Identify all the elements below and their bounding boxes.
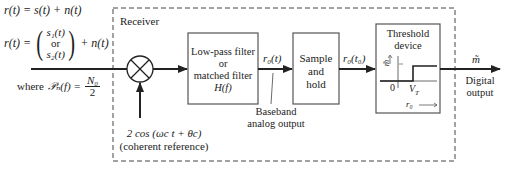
threshold-device-label: Threshold device: [376, 28, 440, 52]
sh-line3: hold: [293, 78, 339, 91]
reference-signal-label: 2 cos (ωc t + θc) (coherent reference): [114, 127, 214, 153]
receiver-label: Receiver: [120, 15, 159, 28]
lpf-line3: matched filter: [188, 70, 258, 82]
or-term: or: [51, 38, 60, 49]
vt-sub: T: [415, 89, 419, 97]
output-line2: output: [455, 87, 505, 99]
equation-suffix: + n(t): [80, 37, 108, 50]
sh-line1: Sample: [293, 52, 339, 65]
s1-term: s₁(t): [46, 27, 65, 38]
psd-fraction: N₀ 2: [85, 75, 100, 98]
threshold-x-axis-label: r₀: [406, 99, 413, 109]
sample-hold-label: Sample and hold: [293, 52, 339, 91]
baseband-line1: Baseband: [240, 106, 312, 118]
sample-output-signal: r₀(t₀): [343, 52, 365, 65]
paren-open: (: [36, 26, 43, 60]
digital-output-label: Digital output: [455, 75, 505, 99]
multiplier-icon: [127, 56, 153, 82]
equation-stack: s₁(t) or s₂(t): [46, 27, 65, 60]
output-line1: Digital: [455, 75, 505, 87]
threshold-origin-label: 0: [390, 82, 395, 93]
lpf-line2: or: [188, 58, 258, 70]
td-line2: device: [376, 40, 440, 52]
equation-text: r(t) = s(t) + n(t): [4, 3, 82, 17]
threshold-y-axis-label: m̃: [381, 60, 391, 67]
baseband-line2: analog output: [240, 118, 312, 130]
psd-prefix: where: [17, 80, 44, 93]
output-signal-label: m̃: [472, 53, 480, 66]
td-line1: Threshold: [376, 28, 440, 40]
input-equation-2: r(t) = ( s₁(t) or s₂(t) ) + n(t): [4, 26, 109, 60]
baseband-pointer: [271, 73, 273, 104]
s2-term: s₂(t): [46, 49, 65, 60]
baseband-annotation: Baseband analog output: [240, 106, 312, 130]
psd-lhs: 𝒫ₙ(f) =: [48, 80, 81, 93]
reference-formula: 2 cos (ωc t + θc): [114, 127, 214, 140]
psd-denominator: 2: [90, 87, 96, 98]
lowpass-filter-label: Low-pass filter or matched filter H(f): [188, 46, 258, 94]
reference-caption: (coherent reference): [114, 140, 214, 153]
input-equation-1: r(t) = s(t) + n(t): [4, 4, 82, 17]
lpf-line4: H(f): [188, 82, 258, 94]
paren-close: ): [68, 26, 75, 60]
equation-prefix: r(t) =: [4, 37, 31, 50]
threshold-vt-label: VT: [409, 83, 419, 97]
lpf-line1: Low-pass filter: [188, 46, 258, 58]
filter-output-signal: r₀(t): [263, 52, 282, 65]
psd-equation: where 𝒫ₙ(f) = N₀ 2: [17, 75, 100, 98]
sh-line2: and: [293, 65, 339, 78]
